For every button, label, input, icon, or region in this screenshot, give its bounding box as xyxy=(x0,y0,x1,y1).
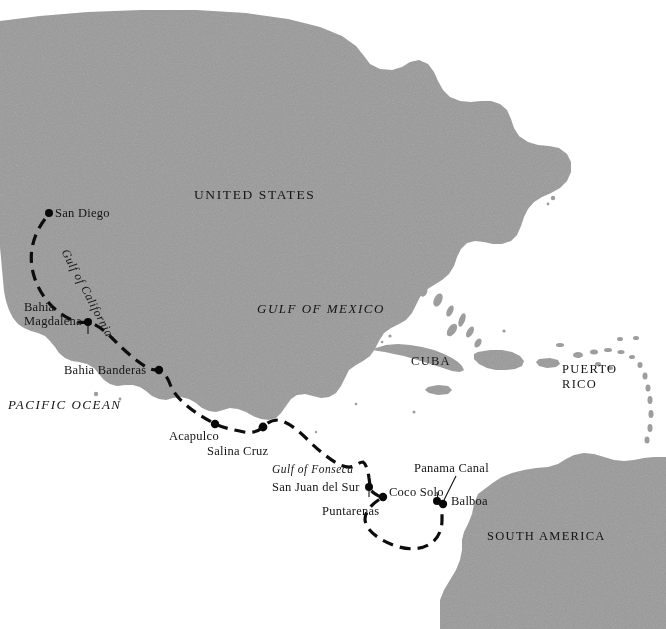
label-acapulco: Acapulco xyxy=(169,429,219,443)
label-panama-canal: Panama Canal xyxy=(414,461,489,475)
label-salina-cruz: Salina Cruz xyxy=(207,444,268,458)
label-pacific-ocean: PACIFIC OCEAN xyxy=(8,398,122,413)
label-layer: UNITED STATES GULF OF MEXICO PACIFIC OCE… xyxy=(0,0,666,629)
label-san-diego: San Diego xyxy=(55,206,110,220)
label-puerto-rico-line2: RICO xyxy=(562,377,597,391)
label-gulf-of-fonseca: Gulf of Fonseca xyxy=(272,463,354,476)
label-bahia-banderas: Bahia Banderas xyxy=(64,363,146,377)
label-south-america: SOUTH AMERICA xyxy=(487,529,606,543)
label-san-juan-del-sur: San Juan del Sur xyxy=(272,480,360,494)
label-bahia-magdalena-line1: Bahia xyxy=(24,300,82,314)
label-cuba: CUBA xyxy=(411,354,451,368)
label-puerto-rico-line1: PUERTO xyxy=(562,362,617,376)
label-coco-solo: Coco Solo xyxy=(389,485,444,499)
label-puntarenas: Puntarenas xyxy=(322,504,379,518)
label-balboa: Balboa xyxy=(451,494,488,508)
map-canvas: UNITED STATES GULF OF MEXICO PACIFIC OCE… xyxy=(0,0,666,629)
label-gulf-of-mexico: GULF OF MEXICO xyxy=(257,302,385,317)
label-bahia-magdalena-line2: Magdalena xyxy=(24,314,82,328)
label-bahia-magdalena: Bahia Magdalena xyxy=(24,300,82,329)
label-united-states: UNITED STATES xyxy=(194,187,315,202)
